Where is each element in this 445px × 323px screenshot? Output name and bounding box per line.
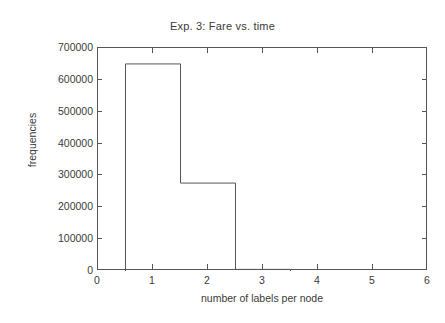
x-tick-mark-top-2: [207, 47, 208, 53]
x-tick-mark-top-5: [372, 47, 373, 53]
x-tick-mark-5: [372, 264, 373, 270]
y-tick-label-300000: 300000: [39, 168, 93, 180]
chart-figure: Exp. 3: Fare vs. time 0 100000 200000 30…: [0, 0, 445, 323]
x-tick-mark-top-4: [317, 47, 318, 53]
x-tick-label-5: 5: [357, 274, 387, 286]
x-tick-mark-2: [207, 264, 208, 270]
histogram-bars: [126, 64, 291, 271]
x-tick-mark-3: [262, 264, 263, 270]
x-tick-mark-top-1: [152, 47, 153, 53]
plot-area: [98, 48, 426, 269]
y-tick-label-200000: 200000: [39, 200, 93, 212]
x-tick-mark-top-3: [262, 47, 263, 53]
y-tick-label-500000: 500000: [39, 105, 93, 117]
x-tick-mark-4: [317, 264, 318, 270]
y-tick-label-600000: 600000: [39, 73, 93, 85]
y-tick-label-100000: 100000: [39, 232, 93, 244]
y-tick-label-700000: 700000: [39, 41, 93, 53]
x-tick-label-6: 6: [412, 274, 442, 286]
x-tick-mark-1: [152, 264, 153, 270]
y-axis-label: frequencies: [26, 90, 38, 190]
x-axis-label: number of labels per node: [97, 292, 427, 304]
x-tick-label-2: 2: [192, 274, 222, 286]
x-tick-label-3: 3: [247, 274, 277, 286]
plot-frame: [97, 47, 427, 270]
x-tick-label-0: 0: [82, 274, 112, 286]
x-tick-label-4: 4: [302, 274, 332, 286]
chart-title: Exp. 3: Fare vs. time: [0, 20, 445, 32]
histogram-outline: [98, 48, 428, 271]
y-tick-label-400000: 400000: [39, 137, 93, 149]
x-tick-label-1: 1: [137, 274, 167, 286]
